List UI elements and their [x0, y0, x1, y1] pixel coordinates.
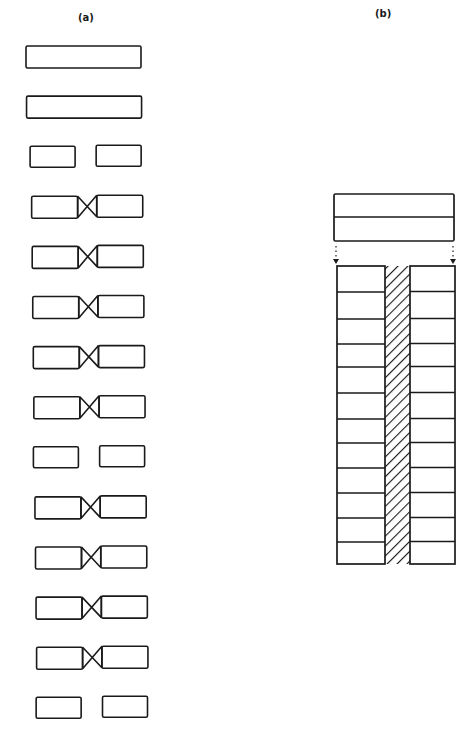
full-bar: [27, 96, 142, 118]
right-block: [96, 145, 141, 166]
cross-connector: [82, 596, 101, 619]
panel-a-row-gap: [36, 696, 147, 718]
panel-a-row-cross: [36, 596, 147, 619]
panel-a-row-cross: [35, 496, 146, 519]
cross-connector: [82, 546, 101, 569]
panel-a-row-cross: [33, 346, 144, 369]
cross-connector: [80, 396, 99, 419]
right-cell-column: [410, 266, 455, 564]
left-block: [33, 347, 79, 369]
right-block: [97, 245, 143, 267]
dotted-arrow-right: [450, 246, 456, 264]
cross-connector: [83, 646, 102, 669]
cross-connector: [79, 296, 98, 319]
left-block: [35, 497, 81, 519]
cell-stack: [337, 266, 455, 564]
left-block: [30, 146, 75, 167]
right-block: [103, 696, 148, 717]
left-block: [36, 547, 82, 569]
panel-a-row-cross: [32, 245, 143, 268]
panel-a-row-full: [27, 96, 142, 118]
panel-a-row-full: [26, 46, 141, 68]
right-block: [97, 195, 143, 217]
left-block: [32, 196, 78, 218]
full-bar: [26, 46, 141, 68]
right-block: [98, 296, 144, 318]
right-block: [101, 596, 147, 618]
panel-a-row-cross: [33, 296, 144, 319]
panel-a-row-cross: [36, 546, 147, 569]
right-block: [99, 396, 145, 418]
right-block: [100, 496, 146, 518]
panel-a-row-cross: [32, 195, 143, 218]
right-block: [102, 646, 148, 668]
right-block: [98, 346, 144, 368]
left-block: [32, 246, 78, 268]
left-block: [34, 397, 80, 419]
panel-a-row-cross: [37, 646, 148, 669]
dotted-arrow-left: [333, 246, 339, 264]
left-cell-column: [337, 266, 385, 564]
left-block: [36, 597, 82, 619]
panel-b: [333, 194, 456, 564]
diagram-canvas: [0, 0, 458, 743]
cross-connector: [81, 496, 100, 519]
cross-connector: [78, 195, 97, 218]
panel-a-row-gap: [33, 446, 144, 468]
panel-a-row-cross: [34, 396, 145, 419]
left-block: [37, 647, 83, 669]
panel-a-row-gap: [30, 145, 141, 167]
cross-connector: [79, 346, 98, 369]
right-block: [101, 546, 147, 568]
left-block: [36, 697, 81, 718]
left-block: [33, 297, 79, 319]
cross-connector: [78, 245, 97, 268]
top-bar: [334, 194, 454, 241]
left-block: [33, 447, 78, 468]
right-block: [100, 446, 145, 467]
panel-a: [26, 46, 148, 718]
hatched-strip: [385, 266, 410, 564]
